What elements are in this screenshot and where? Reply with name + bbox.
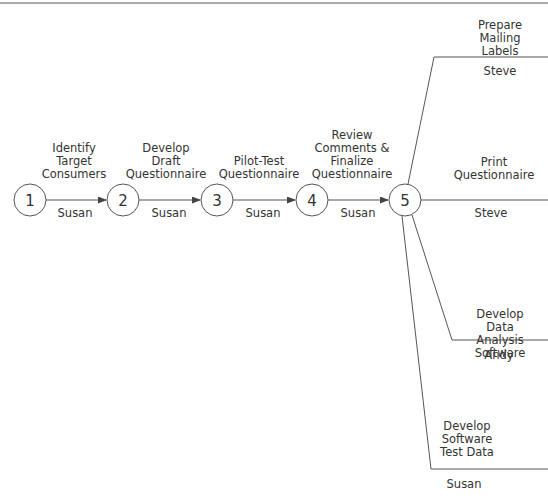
node-1-label: 1 xyxy=(20,193,40,209)
node-3-label: 3 xyxy=(207,193,227,209)
activity-owner-print-questionnaire: Steve xyxy=(475,207,508,220)
node-5-label: 5 xyxy=(395,193,415,209)
activity-name-pilot-test-questionnaire: Pilot-Test Questionnaire xyxy=(219,155,300,181)
activity-owner-data-analysis-software: Andy xyxy=(484,349,513,362)
activity-name-develop-software-test-data: Develop Software Test Data xyxy=(440,420,494,459)
network-diagram: 1 2 3 4 5 Identify Target Consumers Deve… xyxy=(0,0,548,504)
activity-owner-mailing-labels: Steve xyxy=(484,65,517,78)
activity-name-review-finalize-questionnaire: Review Comments & Finalize Questionnaire xyxy=(312,129,393,181)
activity-owner-1: Susan xyxy=(58,207,93,220)
node-4-label: 4 xyxy=(302,193,322,209)
activity-name-prepare-mailing-labels: Prepare Mailing Labels xyxy=(476,19,524,58)
activity-owner-4: Susan xyxy=(341,207,376,220)
activity-owner-3: Susan xyxy=(246,207,281,220)
activity-name-print-questionnaire: Print Questionnaire xyxy=(454,156,535,182)
node-2-label: 2 xyxy=(113,193,133,209)
activity-owner-2: Susan xyxy=(152,207,187,220)
activity-name-develop-draft-questionnaire: Develop Draft Questionnaire xyxy=(126,142,207,181)
activity-name-identify-target-consumers: Identify Target Consumers xyxy=(42,142,107,181)
activity-owner-software-test-data: Susan xyxy=(447,478,482,491)
